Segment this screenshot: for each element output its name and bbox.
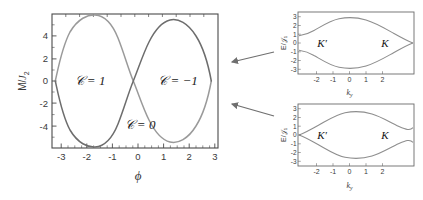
inset-bottom-ytick-0: 3 — [293, 105, 297, 112]
inset-top: 3 2 1 0 -1 -2 -3 -2 -1 0 1 2 ky E/𝒥₁ K′ … — [280, 12, 414, 98]
inset-bottom-yaxis-label: E/𝒥₁ — [280, 127, 288, 142]
main-plot-xtick-labels: -3 -2 -1 0 1 2 3 — [57, 151, 217, 162]
main-ytick-4: -4 — [40, 121, 48, 132]
inset-top-ytick-6: -3 — [291, 66, 297, 73]
inset-bottom-xtick-4: 2 — [381, 168, 385, 175]
main-ytick-1: 2 — [43, 53, 48, 64]
inset-top-ytick-4: -1 — [291, 48, 297, 55]
inset-top-xaxis-label: ky — [346, 88, 353, 98]
inset-top-xtick-4: 2 — [381, 76, 385, 83]
inset-top-xtick-labels: -2 -1 0 1 2 — [313, 76, 384, 83]
inset-top-ytick-3: 0 — [293, 39, 297, 46]
main-xtick-5: 2 — [187, 151, 192, 162]
main-xtick-3: 0 — [135, 151, 140, 162]
main-xtick-1: -2 — [83, 151, 91, 162]
inset-bottom-xaxis-label: ky — [346, 181, 353, 191]
main-xtick-2: -1 — [108, 151, 116, 162]
main-ytick-3: -2 — [40, 98, 48, 109]
main-xtick-6: 3 — [212, 151, 217, 162]
inset-top-yaxis-label: E/𝒥₁ — [280, 35, 288, 50]
main-xtick-0: -3 — [57, 151, 65, 162]
region-label-c0: 𝒞 = 0 — [125, 117, 156, 132]
inset-bottom-ytick-4: -1 — [291, 140, 297, 147]
inset-bottom-xtick-3: 1 — [364, 168, 368, 175]
region-label-c1: 𝒞 = 1 — [75, 73, 106, 88]
inset-top-xtick-1: -1 — [330, 76, 336, 83]
main-yaxis-label: M/J2 — [17, 71, 30, 91]
inset-top-xtick-3: 1 — [364, 76, 368, 83]
inset-bottom-xaxis-label-sub: y — [349, 185, 353, 191]
inset-bottom-ytick-2: 1 — [293, 123, 297, 130]
inset-top-frame — [298, 12, 414, 74]
inset-bottom-xtick-2: 0 — [348, 168, 352, 175]
inset-bottom-ytick-5: -2 — [291, 149, 297, 156]
inset-top-xaxis-label-sub: y — [349, 92, 353, 98]
arrow-top-inset-to-main — [232, 52, 274, 62]
main-yaxis-label-num: M — [17, 82, 28, 90]
inset-bottom-xtick-0: -2 — [313, 168, 319, 175]
inset-bottom-ytick-6: -3 — [291, 158, 297, 165]
inset-bottom-xtick-1: -1 — [330, 168, 336, 175]
inset-bottom-frame — [298, 104, 414, 166]
inset-bottom-valley-k: K — [380, 129, 389, 141]
svg-text:M/J2: M/J2 — [17, 71, 30, 91]
inset-top-xtick-2: 0 — [348, 76, 352, 83]
inset-top-yaxis-label-text: E/𝒥₁ — [280, 35, 288, 50]
main-plot: -3 -2 -1 0 1 2 3 4 2 0 -2 -4 ϕ M/J2 𝒞 = … — [17, 14, 218, 183]
inset-top-ytick-2: 1 — [293, 31, 297, 38]
inset-top-valley-k: K — [380, 37, 389, 49]
inset-bottom-yaxis-label-text: E/𝒥₁ — [280, 127, 288, 142]
main-xaxis-label: ϕ — [135, 168, 142, 183]
figure-svg: -3 -2 -1 0 1 2 3 4 2 0 -2 -4 ϕ M/J2 𝒞 = … — [0, 0, 423, 200]
figure-root: -3 -2 -1 0 1 2 3 4 2 0 -2 -4 ϕ M/J2 𝒞 = … — [0, 0, 423, 200]
inset-bottom-ytick-labels: 3 2 1 0 -1 -2 -3 — [291, 105, 297, 165]
inset-bottom-ytick-3: 0 — [293, 131, 297, 138]
main-ytick-0: 4 — [43, 30, 48, 41]
inset-bottom: 3 2 1 0 -1 -2 -3 -2 -1 0 1 2 ky E/𝒥₁ K′ … — [280, 104, 414, 191]
inset-bottom-ytick-1: 2 — [293, 114, 297, 121]
inset-top-xtick-0: -2 — [313, 76, 319, 83]
arrow-bottom-inset-to-main — [232, 104, 274, 116]
main-plot-ytick-labels: 4 2 0 -2 -4 — [40, 30, 48, 131]
inset-top-valley-kprime: K′ — [316, 37, 327, 49]
inset-bottom-valley-kprime: K′ — [316, 129, 327, 141]
inset-top-ytick-1: 2 — [293, 22, 297, 29]
inset-top-ytick-5: -2 — [291, 57, 297, 64]
inset-top-ytick-0: 3 — [293, 13, 297, 20]
region-label-cminus1: 𝒞 = −1 — [158, 73, 198, 88]
main-ytick-2: 0 — [43, 75, 48, 86]
main-xtick-4: 1 — [161, 151, 166, 162]
inset-top-ytick-labels: 3 2 1 0 -1 -2 -3 — [291, 13, 297, 73]
main-yaxis-label-sub: 2 — [23, 71, 30, 75]
inset-bottom-xtick-labels: -2 -1 0 1 2 — [313, 168, 384, 175]
